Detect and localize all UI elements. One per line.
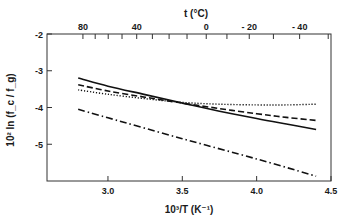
top-axis-title: t (°C) — [184, 8, 208, 19]
chart: 3.03.54.04.5 -2-3-4-5 80400- 20- 40 10³/… — [0, 0, 354, 222]
series-line-dash-dot — [78, 109, 316, 176]
y-tick-label: -2 — [35, 30, 43, 40]
y-axis-title: 10² ln (f_c / f_g) — [5, 73, 16, 146]
top-tick-label: - 40 — [292, 22, 308, 32]
y-tick-label: -4 — [35, 103, 43, 113]
x-axis-title: 10³/T (K⁻¹) — [165, 204, 214, 215]
y-tick-label: -3 — [35, 66, 43, 76]
plot-border — [47, 34, 331, 181]
series-line-solid — [78, 78, 316, 129]
top-tick-label: 0 — [204, 22, 209, 32]
top-tick-label: 40 — [132, 22, 142, 32]
plot-frame — [47, 34, 331, 181]
x-axis-bottom: 3.03.54.04.5 — [102, 176, 338, 196]
x-tick-label: 4.5 — [325, 186, 338, 196]
series-line-dashed — [78, 85, 316, 121]
series-lines — [78, 78, 316, 176]
x-axis-top-celsius: 80400- 20- 40 — [78, 22, 328, 39]
x-tick-label: 3.5 — [176, 186, 189, 196]
x-tick-label: 4.0 — [250, 186, 263, 196]
y-tick-label: -5 — [35, 140, 43, 150]
x-tick-label: 3.0 — [102, 186, 115, 196]
top-tick-label: 80 — [78, 22, 88, 32]
top-tick-label: - 20 — [241, 22, 257, 32]
y-axis-left: -2-3-4-5 — [35, 30, 52, 150]
